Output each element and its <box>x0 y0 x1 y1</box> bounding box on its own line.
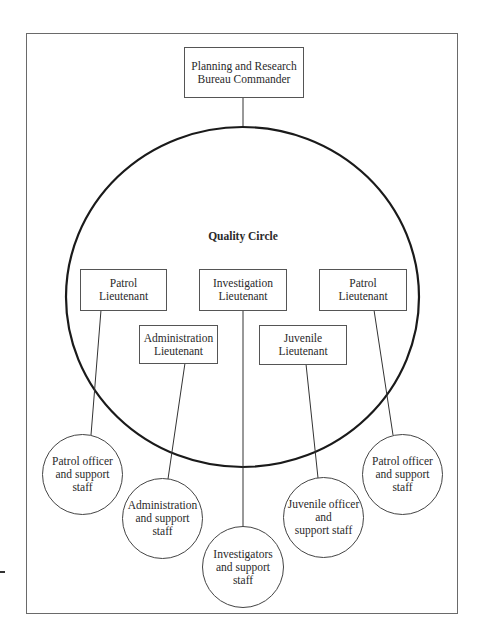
patrol-right-connector <box>374 310 393 435</box>
lieutenant-box-administration: Administration Lieutenant <box>139 325 218 364</box>
patrol-left-connector <box>91 310 101 435</box>
lieutenant-box-investigation: Investigation Lieutenant <box>199 269 287 311</box>
staff-circle-patrol-left: Patrol officer and support staff <box>42 434 123 515</box>
lieutenant-box-patrol-left: Patrol Lieutenant <box>80 269 167 311</box>
staff-circle-juvenile: Juvenile officer and support staff <box>283 477 364 558</box>
staff-circle-administration: Administration and support staff <box>122 478 203 559</box>
juvenile-connector <box>306 364 318 478</box>
lieutenant-box-patrol-right: Patrol Lieutenant <box>319 269 407 311</box>
administration-connector <box>168 363 185 479</box>
staff-circle-investigation: Investigators and support staff <box>202 526 284 608</box>
commander-box: Planning and Research Bureau Commander <box>184 47 304 98</box>
staff-circle-patrol-right: Patrol officer and support staff <box>362 434 443 515</box>
lieutenant-box-juvenile: Juvenile Lieutenant <box>259 325 347 365</box>
quality-circle-label: Quality Circle <box>193 230 293 242</box>
